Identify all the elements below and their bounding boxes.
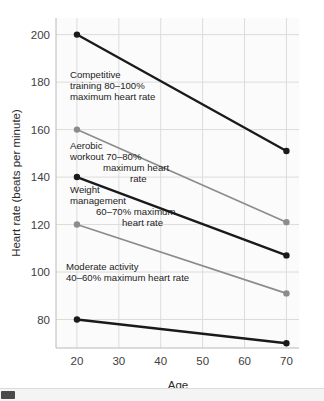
y-tick-label: 200 <box>31 29 50 41</box>
zone-label-line: Aerobic <box>70 140 103 151</box>
zone-label-line: 40–60% maximum heart rate <box>66 272 189 283</box>
horizontal-scrollbar[interactable] <box>0 388 324 401</box>
y-tick-label: 160 <box>31 124 50 136</box>
x-tick-label: 50 <box>196 355 209 367</box>
y-axis-title: Heart rate (beats per minute) <box>10 109 22 257</box>
x-axis-tick-labels: 203040506070 <box>71 355 293 367</box>
zone-label-line: Weight <box>70 184 100 195</box>
zone-label-line: 60–70% maximum <box>96 206 175 217</box>
zone-label-line: workout 70–80% <box>69 151 142 162</box>
zone-label-line: heart rate <box>122 217 163 228</box>
zone-label-line: rate <box>130 173 147 184</box>
zone-label-line: training 80–100% <box>70 80 145 91</box>
x-tick-label: 70 <box>280 355 293 367</box>
data-point-marker <box>74 316 80 322</box>
x-tick-label: 40 <box>154 355 167 367</box>
y-tick-label: 120 <box>31 219 50 231</box>
data-point-marker <box>283 290 289 296</box>
y-tick-label: 100 <box>31 266 50 278</box>
x-tick-label: 60 <box>238 355 251 367</box>
data-point-marker <box>283 340 289 346</box>
heart-rate-zone-chart: 203040506070 80100120140160180200 Compet… <box>0 0 324 401</box>
zone-label-line: Competitive <box>70 69 121 80</box>
data-point-marker <box>283 252 289 258</box>
y-tick-label: 180 <box>31 76 50 88</box>
y-axis-tick-labels: 80100120140160180200 <box>31 29 50 326</box>
zone-label-line: Moderate activity <box>66 261 139 272</box>
data-point-marker <box>74 174 80 180</box>
x-tick-label: 30 <box>112 355 125 367</box>
data-point-marker <box>283 219 289 225</box>
data-point-marker <box>74 221 80 227</box>
chart-canvas: 203040506070 80100120140160180200 Compet… <box>0 0 324 401</box>
data-point-marker <box>283 148 289 154</box>
scrollbar-thumb[interactable] <box>1 391 15 399</box>
zone-label-line: maximum heart rate <box>70 91 155 102</box>
y-tick-label: 140 <box>31 171 50 183</box>
zone-label-line: maximum heart <box>103 162 169 173</box>
data-point-marker <box>74 126 80 132</box>
x-tick-label: 20 <box>71 355 84 367</box>
data-point-marker <box>74 31 80 37</box>
zone-label-line: management <box>70 195 126 206</box>
y-tick-label: 80 <box>37 314 50 326</box>
